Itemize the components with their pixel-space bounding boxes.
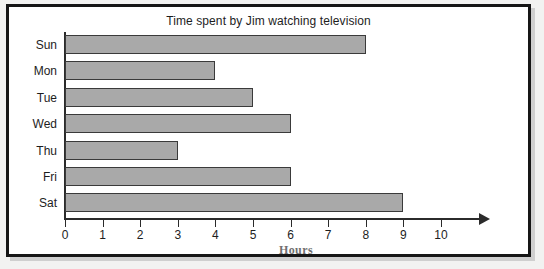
x-tick-9 [403, 220, 404, 227]
category-label-fri: Fri [9, 170, 57, 184]
frame-shadow-right [531, 8, 535, 261]
bar-fri [65, 167, 291, 186]
bar-wed [65, 114, 291, 133]
x-tick-label-4: 4 [200, 228, 230, 242]
bar-thu [65, 141, 178, 160]
x-tick-3 [178, 220, 179, 227]
bar-tue [65, 88, 253, 107]
x-axis-caption: Hours [9, 243, 528, 258]
bar-mon [65, 61, 215, 80]
x-tick-label-1: 1 [88, 228, 118, 242]
chart-frame: Time spent by Jim watching television Su… [6, 4, 531, 257]
category-label-wed: Wed [9, 117, 57, 131]
category-label-sat: Sat [9, 196, 57, 210]
x-tick-8 [366, 220, 367, 227]
category-label-tue: Tue [9, 91, 57, 105]
screenshot-root: Time spent by Jim watching television Su… [0, 0, 544, 269]
x-tick-2 [140, 220, 141, 227]
x-tick-4 [215, 220, 216, 227]
plot-area: Time spent by Jim watching television Su… [9, 7, 528, 254]
bar-sat [65, 193, 403, 212]
x-tick-6 [291, 220, 292, 227]
x-tick-label-9: 9 [388, 228, 418, 242]
category-label-thu: Thu [9, 144, 57, 158]
x-tick-label-3: 3 [163, 228, 193, 242]
x-tick-0 [65, 220, 66, 227]
x-tick-10 [441, 220, 442, 227]
chart-title: Time spent by Jim watching television [9, 14, 528, 28]
x-tick-label-8: 8 [351, 228, 381, 242]
category-label-mon: Mon [9, 64, 57, 78]
x-axis-arrow-icon [479, 213, 490, 225]
x-axis-line [64, 218, 486, 220]
x-tick-7 [328, 220, 329, 227]
bar-sun [65, 35, 366, 54]
x-tick-label-10: 10 [426, 228, 456, 242]
x-tick-label-6: 6 [276, 228, 306, 242]
x-tick-label-5: 5 [238, 228, 268, 242]
x-tick-5 [253, 220, 254, 227]
x-tick-label-2: 2 [125, 228, 155, 242]
x-tick-label-7: 7 [313, 228, 343, 242]
x-tick-label-0: 0 [50, 228, 80, 242]
x-tick-1 [103, 220, 104, 227]
category-label-sun: Sun [9, 38, 57, 52]
